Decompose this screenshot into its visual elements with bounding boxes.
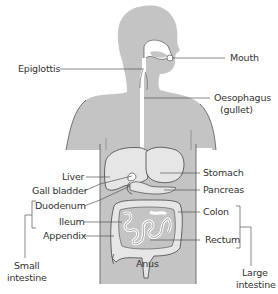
label-rectum: Rectum: [205, 234, 240, 245]
label-liver: Liver: [62, 171, 84, 182]
digestive-system-diagram: Mouth Epiglottis Oesophagus (gullet) Liv…: [0, 0, 278, 294]
diagram-canvas: [0, 0, 278, 294]
label-epiglottis: Epiglottis: [18, 63, 60, 74]
label-colon: Colon: [203, 206, 229, 217]
label-anus: Anus: [136, 258, 159, 269]
label-oesophagus-gullet: (gullet): [220, 104, 253, 115]
label-stomach: Stomach: [203, 167, 244, 178]
label-appendix: Appendix: [43, 230, 86, 241]
label-small-intestine-1: Small: [14, 260, 39, 271]
label-duodenum: Duodenum: [35, 200, 86, 211]
label-mouth: Mouth: [230, 52, 259, 63]
label-large-intestine-1: Large: [242, 267, 268, 278]
label-pancreas: Pancreas: [203, 184, 244, 195]
label-oesophagus: Oesophagus: [214, 92, 271, 103]
label-large-intestine-2: intestine: [236, 279, 276, 290]
label-ileum: Ileum: [59, 216, 85, 227]
stomach: [146, 147, 184, 183]
label-small-intestine-2: intestine: [7, 272, 47, 283]
label-gall-bladder: Gall bladder: [32, 185, 87, 196]
